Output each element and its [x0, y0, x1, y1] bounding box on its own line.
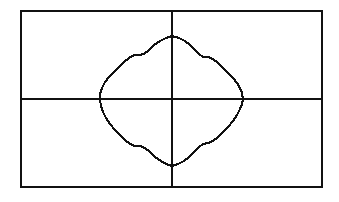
polar-plot-canvas: [0, 0, 339, 202]
figure-root: [0, 0, 339, 202]
plot-background: [0, 0, 339, 202]
